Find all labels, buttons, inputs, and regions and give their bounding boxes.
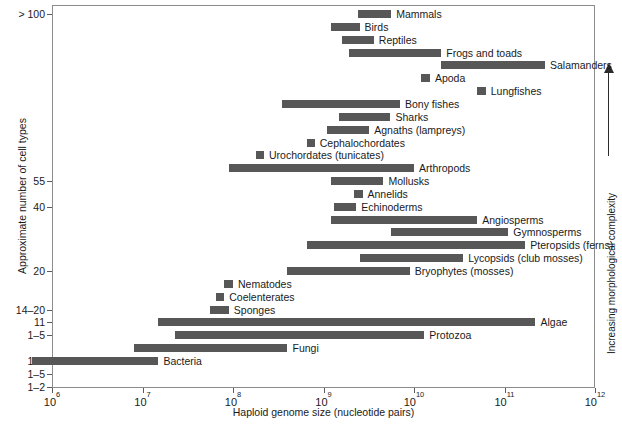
bar-label: Coelenterates xyxy=(229,291,294,303)
bar-label: Pteropsids (ferns) xyxy=(530,239,613,251)
bar-label: Mammals xyxy=(396,8,442,20)
bar-label: Annelids xyxy=(368,188,408,200)
bar-label: Algae xyxy=(540,316,567,328)
genome-size-chart: Approximate number of cell types Haploid… xyxy=(0,0,622,425)
bar xyxy=(331,216,478,224)
bar xyxy=(334,203,356,211)
x-tick-mark xyxy=(505,388,506,393)
y-tick-mark xyxy=(47,207,52,208)
y-tick-mark xyxy=(47,181,52,182)
bar xyxy=(339,113,390,121)
bar xyxy=(216,293,224,301)
bar xyxy=(331,177,384,185)
y-tick-mark xyxy=(47,322,52,323)
y-tick-mark xyxy=(47,14,52,15)
bar-label: Reptiles xyxy=(379,34,417,46)
bar-label: Echinoderms xyxy=(361,201,422,213)
x-tick-label: 107 xyxy=(134,394,150,408)
bar xyxy=(358,10,391,18)
bar-label: Sponges xyxy=(234,304,275,316)
y-tick-mark xyxy=(47,310,52,311)
bar-label: Sharks xyxy=(396,111,429,123)
x-axis-title: Haploid genome size (nucleotide pairs) xyxy=(52,406,595,418)
bar xyxy=(282,100,400,108)
bar xyxy=(134,344,288,352)
bar xyxy=(175,331,424,339)
bar-label: Angiosperms xyxy=(482,214,543,226)
bar-label: Bryophytes (mosses) xyxy=(415,265,514,277)
complexity-arrow-icon xyxy=(608,72,609,156)
bar-label: Birds xyxy=(365,21,389,33)
bar-label: Gymnosperms xyxy=(513,226,581,238)
bar xyxy=(391,228,509,236)
y-tick-mark xyxy=(47,387,52,388)
bar-label: Nematodes xyxy=(238,278,292,290)
x-tick-mark xyxy=(233,388,234,393)
x-tick-mark xyxy=(324,388,325,393)
bar-label: Lungfishes xyxy=(491,85,542,97)
bar xyxy=(210,306,229,314)
bar-label: Mollusks xyxy=(388,175,429,187)
bar xyxy=(229,164,414,172)
x-tick-mark xyxy=(143,388,144,393)
y-axis-title: Approximate number of cell types xyxy=(16,66,28,326)
y-tick-label: 1–5 xyxy=(27,329,45,341)
bar xyxy=(307,241,526,249)
y-tick-label: 1–5 xyxy=(27,368,45,380)
bar-label: Apoda xyxy=(435,72,465,84)
y-tick-mark xyxy=(47,335,52,336)
bar xyxy=(421,74,430,82)
bar xyxy=(327,126,369,134)
bar xyxy=(307,139,315,147)
bar xyxy=(477,87,485,95)
bar-label: Salamanders xyxy=(550,59,612,71)
bar-label: Bony fishes xyxy=(405,98,459,110)
x-tick-label: 108 xyxy=(225,394,241,408)
bar-label: Arthropods xyxy=(419,162,470,174)
bar-label: Agnaths (lampreys) xyxy=(374,124,465,136)
y-tick-mark xyxy=(47,374,52,375)
bar xyxy=(32,357,159,365)
y-tick-label: > 100 xyxy=(18,8,45,20)
x-tick-label: 109 xyxy=(315,394,331,408)
bar xyxy=(441,61,545,69)
bar xyxy=(287,267,409,275)
x-tick-mark xyxy=(52,388,53,393)
bar xyxy=(349,49,442,57)
bar-label: Protozoa xyxy=(429,329,471,341)
bar xyxy=(360,254,464,262)
bar-label: Frogs and toads xyxy=(446,47,522,59)
bar xyxy=(342,36,374,44)
x-tick-label: 1011 xyxy=(494,394,514,408)
bar-label: Lycopsids (club mosses) xyxy=(468,252,583,264)
y-tick-label: 1–2 xyxy=(27,381,45,393)
bar-label: Urochordates (tunicates) xyxy=(269,149,384,161)
complexity-annotation: Increasing morphological complexity xyxy=(606,164,617,384)
bar xyxy=(256,151,264,159)
y-tick-label: 20 xyxy=(33,265,45,277)
bar xyxy=(158,318,535,326)
bar-label: Fungi xyxy=(292,342,318,354)
x-tick-label: 1012 xyxy=(585,394,606,408)
x-tick-label: 106 xyxy=(44,394,60,408)
y-tick-label: 14–20 xyxy=(16,304,45,316)
bar xyxy=(331,23,360,31)
y-tick-label: 40 xyxy=(33,201,45,213)
bar-label: Bacteria xyxy=(163,355,202,367)
y-tick-label: 55 xyxy=(33,175,45,187)
x-tick-label: 1010 xyxy=(404,394,425,408)
y-tick-mark xyxy=(47,271,52,272)
bar-label: Cephalochordates xyxy=(320,137,405,149)
bar xyxy=(354,190,362,198)
y-tick-label: 11 xyxy=(34,316,45,328)
bar xyxy=(224,280,233,288)
